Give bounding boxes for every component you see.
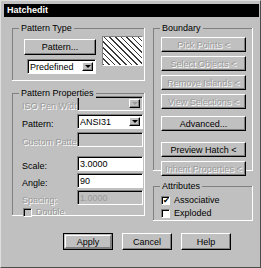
double-checkbox: Double bbox=[23, 207, 65, 217]
select-objects-label: Select Objects < bbox=[171, 59, 237, 69]
pattern-type-combo[interactable]: Predefined bbox=[27, 59, 96, 74]
double-checkbox-label: Double bbox=[36, 207, 65, 217]
exploded-checkbox[interactable]: Exploded bbox=[161, 208, 212, 218]
apply-label: Apply bbox=[77, 237, 100, 247]
window-title: Hatchedit bbox=[4, 4, 48, 17]
pattern-label: Pattern: bbox=[22, 119, 54, 129]
scale-label: Scale: bbox=[22, 161, 47, 171]
angle-value: 90 bbox=[80, 176, 90, 186]
preview-hatch-label: Preview Hatch < bbox=[171, 145, 237, 155]
pattern-type-group-label: Pattern Type bbox=[19, 23, 74, 33]
remove-islands-label: Remove Islands < bbox=[167, 78, 239, 88]
apply-button[interactable]: Apply bbox=[63, 233, 113, 250]
cancel-button[interactable]: Cancel bbox=[122, 233, 172, 250]
checkbox-box bbox=[23, 208, 32, 217]
boundary-group-label: Boundary bbox=[160, 23, 203, 33]
attributes-group-label: Attributes bbox=[160, 181, 202, 191]
exploded-label: Exploded bbox=[174, 208, 212, 218]
angle-input[interactable]: 90 bbox=[77, 173, 143, 188]
pattern-type-combo-value: Predefined bbox=[30, 62, 74, 72]
inherit-properties-button: Inherit Properties < bbox=[161, 161, 246, 176]
associative-checkbox[interactable]: ✔ Associative bbox=[161, 195, 220, 205]
help-button[interactable]: Help bbox=[181, 233, 231, 250]
check-icon: ✔ bbox=[163, 198, 169, 204]
checkbox-box[interactable] bbox=[161, 209, 170, 218]
iso-pen-width-label: ISO Pen Width: bbox=[22, 101, 84, 111]
spacing-value: 1.0000 bbox=[80, 193, 108, 203]
pick-points-button: Pick Points < bbox=[161, 37, 246, 52]
pattern-button-label: Pattern... bbox=[42, 42, 79, 52]
select-objects-button: Select Objects < bbox=[161, 56, 246, 71]
associative-label: Associative bbox=[174, 195, 220, 205]
remove-islands-button: Remove Islands < bbox=[161, 75, 246, 90]
hatch-preview-swatch bbox=[102, 36, 143, 66]
cancel-label: Cancel bbox=[133, 237, 161, 247]
spacing-input: 1.0000 bbox=[77, 190, 143, 205]
pattern-combo-value: ANSI31 bbox=[80, 117, 111, 127]
view-selections-label: View Selections < bbox=[168, 97, 239, 107]
checkbox-box[interactable]: ✔ bbox=[161, 196, 170, 205]
pattern-combo[interactable]: ANSI31 bbox=[77, 114, 143, 129]
hatchedit-dialog: Hatchedit Pattern Type Pattern... Predef… bbox=[0, 0, 261, 268]
pattern-properties-group-label: Pattern Properties bbox=[19, 88, 96, 98]
spacing-label: Spacing: bbox=[22, 195, 57, 205]
iso-pen-width-combo bbox=[77, 96, 143, 111]
chevron-down-icon[interactable] bbox=[82, 62, 93, 71]
scale-value: 3.0000 bbox=[80, 159, 108, 169]
preview-hatch-button[interactable]: Preview Hatch < bbox=[161, 142, 246, 157]
view-selections-button: View Selections < bbox=[161, 94, 246, 109]
angle-label: Angle: bbox=[22, 178, 48, 188]
custom-pattern-input bbox=[77, 132, 143, 147]
advanced-button[interactable]: Advanced... bbox=[161, 116, 246, 131]
inherit-properties-label: Inherit Properties < bbox=[165, 164, 241, 174]
help-label: Help bbox=[197, 237, 216, 247]
pattern-button[interactable]: Pattern... bbox=[24, 39, 96, 55]
chevron-down-icon[interactable] bbox=[129, 117, 140, 126]
advanced-label: Advanced... bbox=[180, 119, 228, 129]
scale-input[interactable]: 3.0000 bbox=[77, 156, 143, 171]
pick-points-label: Pick Points < bbox=[177, 40, 229, 50]
title-bar[interactable]: Hatchedit bbox=[4, 4, 259, 17]
chevron-down-icon bbox=[129, 99, 140, 108]
